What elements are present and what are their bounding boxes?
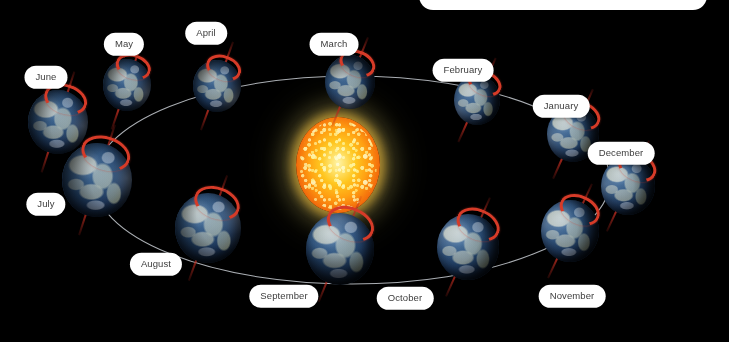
month-label-december[interactable]: December: [588, 142, 655, 165]
earth-seasons-diagram: JanuaryFebruaryMarchAprilMayJuneJulyAugu…: [0, 0, 729, 342]
month-label-november[interactable]: November: [539, 285, 606, 308]
month-label-march[interactable]: March: [310, 33, 359, 56]
month-label-may[interactable]: May: [104, 33, 144, 56]
month-label-october[interactable]: October: [377, 287, 434, 310]
top-info-panel[interactable]: [419, 0, 707, 10]
month-label-july[interactable]: July: [26, 193, 65, 216]
earth-july: [42, 115, 152, 245]
month-label-january[interactable]: January: [533, 95, 590, 118]
month-label-february[interactable]: February: [433, 59, 494, 82]
month-label-april[interactable]: April: [185, 22, 227, 45]
earth-october: [417, 186, 519, 308]
month-label-august[interactable]: August: [130, 253, 182, 276]
month-label-june[interactable]: June: [24, 66, 67, 89]
earth-april: [173, 32, 261, 140]
month-label-september[interactable]: September: [249, 285, 318, 308]
